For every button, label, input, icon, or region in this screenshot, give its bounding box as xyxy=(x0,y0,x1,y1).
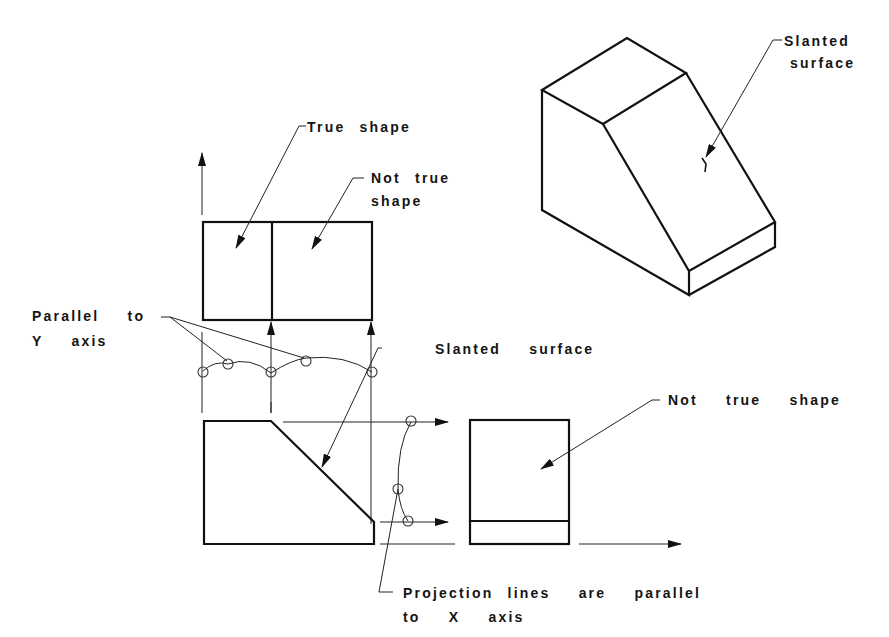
label-not-true-shape-top-2: shape xyxy=(371,190,422,212)
top-view xyxy=(203,222,372,320)
label-not-true-shape-side: Not true shape xyxy=(668,389,841,411)
label-slanted-surface-front: Slanted surface xyxy=(435,338,594,360)
arc-swing-x xyxy=(393,416,416,526)
isometric-block xyxy=(542,38,775,295)
label-parallel-y-2: Y axis xyxy=(32,330,108,352)
front-view xyxy=(204,421,374,544)
slanted-surface-front-leader xyxy=(322,348,382,467)
parallel-y-leaders xyxy=(161,317,304,361)
label-projection-lines-1: Projection lines are parallel xyxy=(403,582,701,604)
label-slanted-surface-iso-2: surface xyxy=(790,52,855,74)
label-true-shape: True shape xyxy=(307,116,411,138)
label-not-true-shape-top-1: Not true xyxy=(371,167,450,189)
projection-lines-leader xyxy=(379,489,398,592)
horizontal-projection-lines xyxy=(283,422,681,544)
not-true-shape-side-leader xyxy=(541,400,660,469)
side-view xyxy=(470,420,569,544)
surface-mark-icon xyxy=(702,158,706,172)
label-projection-lines-2: to X axis xyxy=(403,606,525,628)
label-slanted-surface-iso-1: Slanted xyxy=(784,30,850,52)
label-parallel-y-1: Parallel to xyxy=(32,305,145,327)
not-true-shape-top-leader xyxy=(312,178,364,249)
iso-slanted-leader xyxy=(702,40,782,172)
